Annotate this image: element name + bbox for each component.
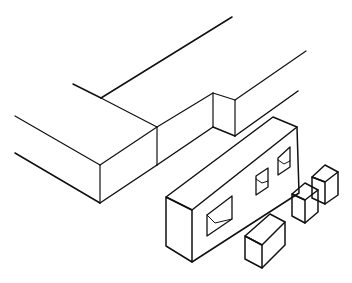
slotted-tenon-block [166, 117, 299, 262]
joint-diagram [0, 0, 352, 283]
small-cube-3 [312, 165, 338, 204]
small-cube-1 [245, 214, 285, 268]
diagram-canvas [0, 0, 352, 283]
beam-with-notch [15, 17, 306, 203]
small-cube-2 [292, 183, 318, 223]
